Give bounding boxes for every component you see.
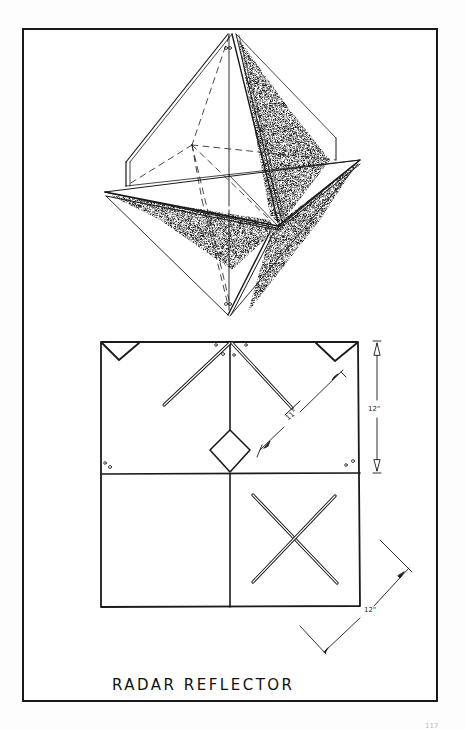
drawing-title: RADAR REFLECTOR [112,676,295,694]
holes [104,344,355,469]
drawing-canvas: 12" 11" 12" [0,0,466,729]
dimension-12in-diagonal [300,540,412,654]
edge-top-left [126,34,228,162]
notch-left [102,343,139,360]
page-number: 117 [425,722,438,729]
pin-bottom [225,303,228,306]
stipple-shading [110,38,358,312]
isometric-reflector [105,34,360,316]
flat-layout: 12" 11" 12" [101,341,412,654]
dimension-label-side: 12" [364,606,376,614]
dimension-label-height: 12" [368,405,380,413]
notch-right [316,343,357,361]
diamond-slot [210,430,250,472]
dimension-label-diagonal: 11" [284,408,298,422]
